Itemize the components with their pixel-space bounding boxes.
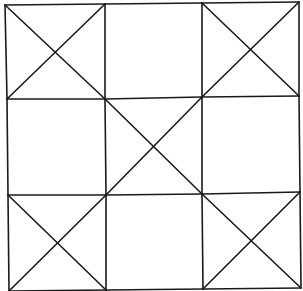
horizontal-grid-line bbox=[202, 192, 300, 194]
vertical-grid-line bbox=[5, 5, 7, 99]
x-mark-icon bbox=[105, 97, 202, 195]
vertical-grid-line bbox=[8, 195, 9, 291]
horizontal-grid-line bbox=[202, 2, 299, 3]
vertical-grid-line bbox=[300, 192, 301, 288]
vertical-grid-line bbox=[7, 99, 8, 195]
horizontal-grid-line bbox=[202, 96, 299, 97]
anti-diagonal-line bbox=[203, 192, 300, 289]
x-mark-icon bbox=[8, 195, 106, 291]
horizontal-grid-line bbox=[106, 194, 202, 195]
horizontal-grid-line bbox=[105, 97, 202, 99]
horizontal-grid-line bbox=[106, 289, 203, 290]
x-mark-icon bbox=[5, 4, 105, 99]
vertical-grid-line bbox=[202, 194, 203, 289]
vertical-grid-line bbox=[299, 96, 300, 192]
x-mark-icon bbox=[202, 192, 301, 289]
grid-diagram bbox=[0, 0, 303, 291]
cell-marks bbox=[5, 2, 301, 291]
horizontal-grid-line bbox=[203, 288, 301, 289]
vertical-grid-line bbox=[105, 99, 106, 195]
horizontal-grid-line bbox=[5, 4, 105, 5]
x-mark-icon bbox=[202, 2, 299, 97]
horizontal-grid-line bbox=[105, 3, 202, 4]
